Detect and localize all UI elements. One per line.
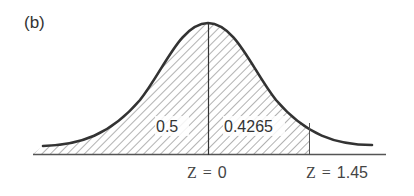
z0-label: Z = 0 bbox=[187, 164, 227, 181]
normal-curve-diagram: 0.5 0.4265 Z = 0 Z = 1.45 bbox=[0, 0, 414, 196]
left-area-label: 0.5 bbox=[156, 118, 178, 135]
right-area-label: 0.4265 bbox=[224, 118, 273, 135]
z145-label: Z = 1.45 bbox=[306, 164, 368, 181]
